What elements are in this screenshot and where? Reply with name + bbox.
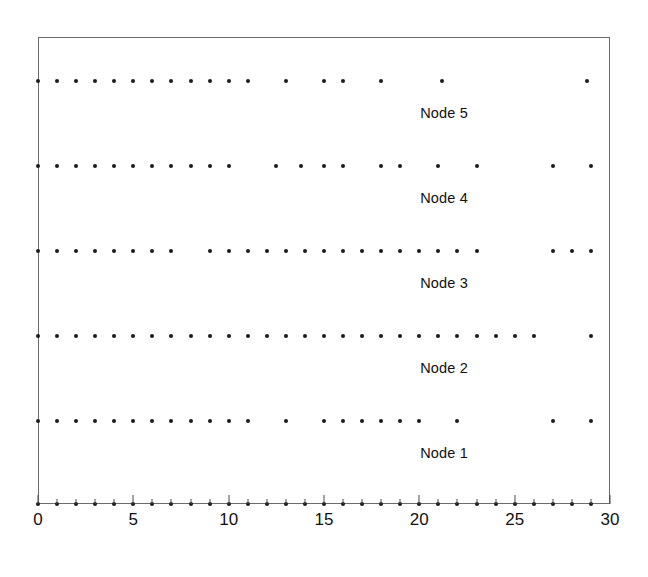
data-point (398, 164, 402, 168)
data-point (246, 419, 250, 423)
data-point (379, 334, 383, 338)
series-label-node-4: Node 4 (420, 190, 468, 206)
series-label-node-1: Node 1 (420, 445, 468, 461)
data-point (208, 419, 212, 423)
data-point (475, 164, 479, 168)
x-axis-tick-label: 30 (601, 510, 620, 530)
data-point (284, 419, 288, 423)
x-axis-major-tick (610, 495, 611, 504)
data-point (265, 334, 269, 338)
x-axis-minor-tick (571, 499, 572, 504)
data-point (360, 419, 364, 423)
x-axis-major-tick (324, 495, 325, 504)
data-point (112, 164, 116, 168)
x-axis-tick-label: 20 (410, 510, 429, 530)
x-axis-minor-tick (476, 499, 477, 504)
data-point (589, 334, 593, 338)
data-point (341, 164, 345, 168)
data-point (36, 419, 40, 423)
data-point (551, 249, 555, 253)
data-point (494, 334, 498, 338)
x-axis-minor-tick (171, 499, 172, 504)
data-point (341, 249, 345, 253)
data-point (36, 334, 40, 338)
data-point (341, 419, 345, 423)
data-point (189, 79, 193, 83)
data-point (169, 164, 173, 168)
data-point (55, 79, 59, 83)
x-axis-minor-tick (495, 499, 496, 504)
x-axis-minor-tick (438, 499, 439, 504)
x-axis-tick-label: 0 (33, 510, 42, 530)
x-axis-minor-tick (362, 499, 363, 504)
data-point (341, 334, 345, 338)
data-point (36, 79, 40, 83)
data-point (551, 419, 555, 423)
data-point (398, 419, 402, 423)
x-axis-major-tick (133, 495, 134, 504)
data-point (112, 249, 116, 253)
data-point (299, 164, 303, 168)
x-axis-minor-tick (457, 499, 458, 504)
data-point (189, 334, 193, 338)
data-point (208, 249, 212, 253)
data-point (436, 334, 440, 338)
data-point (131, 419, 135, 423)
data-point (513, 334, 517, 338)
data-point (227, 249, 231, 253)
data-point (379, 164, 383, 168)
data-point (93, 419, 97, 423)
data-point (284, 334, 288, 338)
x-axis-minor-tick (57, 499, 58, 504)
data-point (570, 249, 574, 253)
data-point (303, 334, 307, 338)
data-point (322, 164, 326, 168)
data-point (417, 334, 421, 338)
data-point (93, 334, 97, 338)
data-point (436, 164, 440, 168)
data-point (131, 334, 135, 338)
x-axis-minor-tick (343, 499, 344, 504)
data-point (74, 334, 78, 338)
x-axis-tick-label: 10 (219, 510, 238, 530)
data-point (360, 249, 364, 253)
series-label-node-3: Node 3 (420, 275, 468, 291)
data-point (360, 334, 364, 338)
x-axis-minor-tick (533, 499, 534, 504)
data-point (208, 334, 212, 338)
data-point (322, 249, 326, 253)
data-point (227, 79, 231, 83)
data-point (589, 164, 593, 168)
x-axis-minor-tick (76, 499, 77, 504)
x-axis-minor-tick (152, 499, 153, 504)
data-point (265, 249, 269, 253)
data-point (246, 249, 250, 253)
data-point (150, 334, 154, 338)
x-axis-major-tick (228, 495, 229, 504)
data-point (55, 249, 59, 253)
data-point (455, 419, 459, 423)
data-point (227, 164, 231, 168)
data-point (169, 249, 173, 253)
data-point (93, 249, 97, 253)
data-point (274, 164, 278, 168)
data-point (150, 419, 154, 423)
data-point (246, 79, 250, 83)
data-point (36, 164, 40, 168)
data-point (36, 249, 40, 253)
data-point (455, 334, 459, 338)
data-point (398, 249, 402, 253)
data-point (417, 419, 421, 423)
x-axis-major-tick (38, 495, 39, 504)
data-point (55, 419, 59, 423)
data-point (208, 164, 212, 168)
data-point (551, 164, 555, 168)
data-point (150, 164, 154, 168)
x-axis-minor-tick (381, 499, 382, 504)
data-point (589, 419, 593, 423)
data-point (227, 334, 231, 338)
data-point (475, 334, 479, 338)
data-point (227, 419, 231, 423)
x-axis-tick-label: 5 (129, 510, 138, 530)
plot-layer: Node 5Node 4Node 3Node 2Node 10510152025… (0, 0, 648, 577)
